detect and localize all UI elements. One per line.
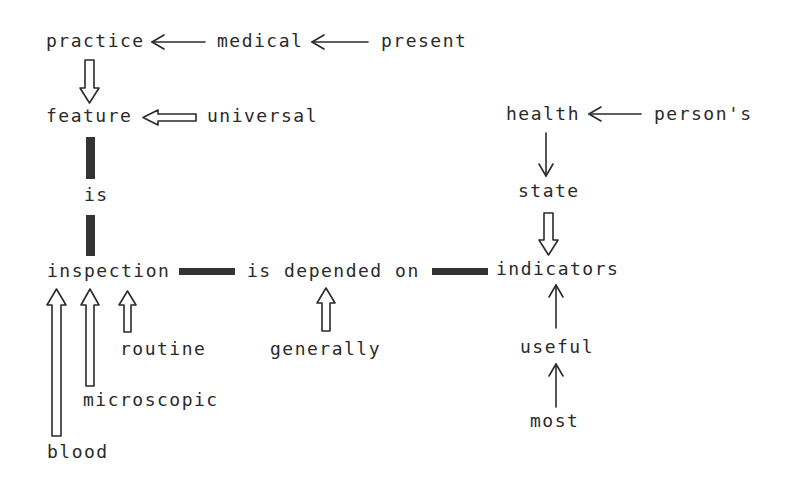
node-generally: generally [270,339,381,359]
thick-link-depended-indicators [432,268,488,275]
node-inspection: inspection [47,261,170,281]
thick-link-is-inspection [86,215,95,256]
node-is: is [84,185,109,205]
node-blood: blood [47,442,109,462]
thick-link-inspection-depended [179,268,235,275]
node-practice: practice [46,31,145,51]
arrow-persons-to-health [589,107,641,121]
node-persons: person's [654,104,753,124]
node-is-depended-on: is depended on [247,261,420,281]
double-arrow-state-to-indicators [539,213,558,255]
double-arrow-generally-to-is-depended-on [317,288,335,331]
double-arrow-routine-to-inspection [119,291,136,332]
arrow-health-to-state [539,133,553,176]
node-routine: routine [120,339,206,359]
node-state: state [518,181,580,201]
node-medical: medical [217,31,303,51]
double-arrow-practice-to-feature [80,60,99,103]
thick-link-feature-is [86,137,95,179]
arrow-useful-to-indicators [549,285,563,328]
node-present: present [381,31,467,51]
arrow-most-to-useful [549,364,563,407]
node-indicators: indicators [496,259,619,279]
node-feature: feature [46,106,132,126]
diagram-canvas: practice medical present feature univers… [0,0,795,478]
double-arrow-blood-to-inspection [47,289,66,436]
node-health: health [506,104,580,124]
node-useful: useful [520,337,594,357]
arrow-present-to-medical [312,35,368,49]
node-most: most [530,411,579,431]
double-arrow-microscopic-to-inspection [81,289,99,386]
double-arrow-universal-to-feature [143,110,196,125]
node-universal: universal [207,106,318,126]
arrow-medical-to-practice [152,35,205,49]
node-microscopic: microscopic [83,390,219,410]
